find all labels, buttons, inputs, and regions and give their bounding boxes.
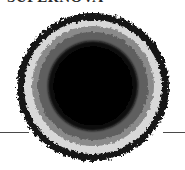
- rule-right: [163, 132, 185, 133]
- blob-layer-core: [48, 41, 138, 131]
- blob-image: [0, 0, 185, 170]
- blob-svg: [0, 0, 185, 170]
- figure-root: SUPERNOVA: [0, 0, 185, 170]
- rule-left: [0, 132, 29, 133]
